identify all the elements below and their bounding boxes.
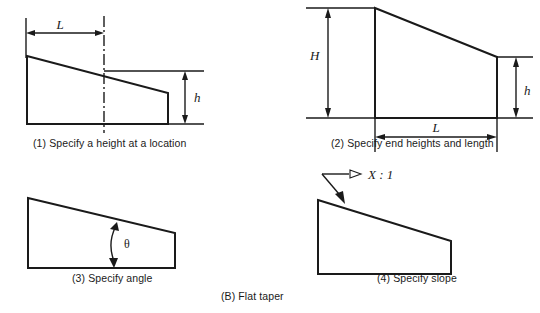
taper-outline [27, 56, 168, 124]
panel-specify-end-heights-and-length: H h L [288, 0, 540, 160]
dimension-label-theta: θ [124, 237, 130, 251]
arrowhead-slope-direction [350, 170, 361, 178]
dimension-label-L: L [55, 17, 63, 32]
flat-taper-figure: L h (1) Specify a height at a location [0, 0, 540, 313]
panel-4-caption: (4) Specify slope [377, 272, 457, 284]
arrowhead-h-top [182, 71, 188, 80]
arrowhead-h-bottom [513, 108, 519, 118]
panel-specify-height-at-location: L h [0, 0, 270, 160]
panel-1-caption: (1) Specify a height at a location [33, 137, 186, 149]
taper-outline [28, 198, 175, 268]
angle-arc [111, 226, 116, 261]
dimension-label-h: h [524, 83, 531, 98]
arrowhead-H-top [325, 8, 331, 18]
panel-2-caption: (2) Specify end heights and length [331, 137, 494, 149]
panel-specify-angle: θ [0, 176, 270, 286]
arrowhead-L-right [95, 30, 104, 36]
arrowhead-h-bottom [182, 115, 188, 124]
dimension-label-slope: X : 1 [367, 167, 393, 182]
arrowhead-leader-to-face [335, 191, 345, 204]
panel-specify-slope: X : 1 [288, 166, 540, 286]
arrowhead-H-bottom [325, 108, 331, 118]
dimension-label-H: H [309, 48, 320, 63]
leader-line-diagonal [322, 174, 339, 194]
arrowhead-h-top [513, 57, 519, 67]
arrowhead-angle-top [110, 222, 119, 231]
panel-3-caption: (3) Specify angle [72, 272, 153, 284]
dimension-label-h: h [194, 90, 201, 105]
taper-outline [375, 8, 497, 118]
arrowhead-angle-bottom [109, 258, 118, 268]
dimension-label-L: L [431, 120, 439, 135]
arrowhead-L-left [26, 30, 35, 36]
figure-main-caption: (B) Flat taper [221, 290, 284, 302]
taper-outline [318, 200, 451, 274]
